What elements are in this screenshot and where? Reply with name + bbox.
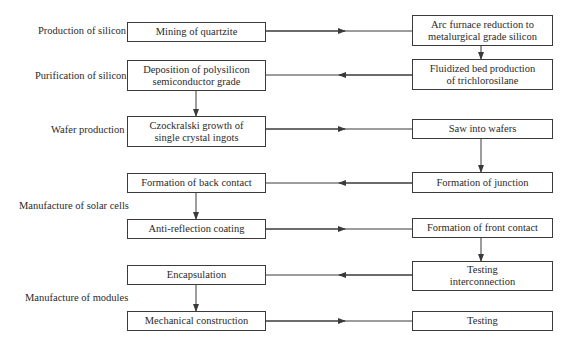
node-label: Formation of front contact — [427, 222, 538, 234]
node-label: Anti-reflection coating — [149, 223, 245, 235]
node-formation-of-junction: Formation of junction — [412, 172, 553, 193]
node-label: Testing interconnection — [450, 264, 515, 288]
node-mining-of-quartzite: Mining of quartzite — [127, 22, 266, 42]
stage-label-modules: Manufacture of modules — [25, 292, 128, 304]
node-label: Formation of back contact — [141, 177, 252, 189]
node-label: Mining of quartzite — [156, 26, 238, 38]
node-label: Czockralski growth of single crystal ing… — [150, 120, 244, 144]
node-label: Encapsulation — [167, 269, 226, 281]
node-label: Fluidized bed production of trichlorosil… — [430, 63, 536, 87]
node-testing: Testing — [412, 311, 553, 331]
stage-label-production: Production of silicon — [38, 25, 126, 37]
stage-label-purification: Purification of silicon — [35, 70, 127, 82]
node-label: Formation of junction — [436, 177, 528, 189]
node-formation-of-back-contact: Formation of back contact — [127, 173, 266, 193]
node-label: Deposition of polysilicon semiconductor … — [143, 64, 250, 88]
node-label: Testing — [467, 315, 498, 327]
node-encapsulation: Encapsulation — [127, 265, 266, 285]
node-label: Mechanical construction — [145, 315, 249, 327]
node-testing-interconnection: Testing interconnection — [412, 261, 553, 291]
node-formation-of-front-contact: Formation of front contact — [412, 218, 553, 238]
node-czochralski-growth: Czockralski growth of single crystal ing… — [127, 116, 266, 147]
node-deposition-of-polysilicon: Deposition of polysilicon semiconductor … — [127, 60, 266, 91]
node-label: Arc furnace reduction to metalurgical gr… — [428, 19, 537, 43]
node-fluidized-bed-production: Fluidized bed production of trichlorosil… — [412, 59, 553, 90]
node-label: Saw into wafers — [449, 123, 517, 135]
stage-label-cells: Manufacture of solar cells — [19, 200, 129, 212]
node-anti-reflection-coating: Anti-reflection coating — [127, 219, 266, 239]
node-mechanical-construction: Mechanical construction — [127, 311, 266, 331]
node-arc-furnace-reduction: Arc furnace reduction to metalurgical gr… — [412, 15, 553, 46]
node-saw-into-wafers: Saw into wafers — [412, 119, 553, 139]
stage-label-wafer: Wafer production — [51, 124, 125, 136]
